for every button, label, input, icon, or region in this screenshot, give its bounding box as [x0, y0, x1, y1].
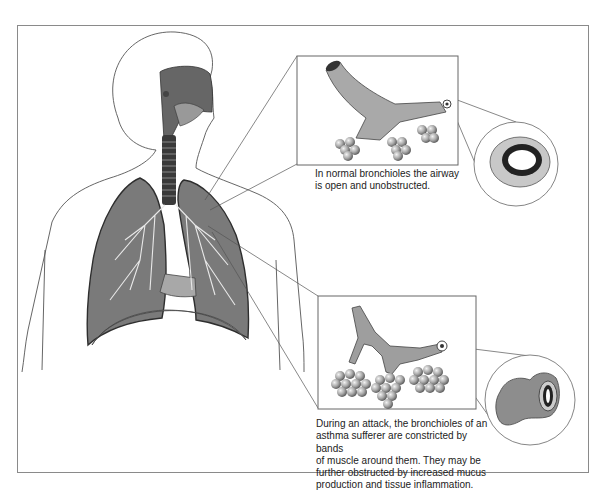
caption-line: further obstructed by increased mucus: [316, 467, 491, 479]
asthma-illustration: [0, 0, 601, 492]
trachea: [162, 135, 176, 205]
caption-line: production and tissue inflammation.: [316, 479, 491, 491]
caption-line: of muscle around them. They may be: [316, 455, 491, 467]
constricted-airway-cross-section: [485, 355, 575, 445]
constricted-bronchioles-inset: [318, 296, 476, 409]
normal-bronchioles-caption: In normal bronchioles the airway is open…: [315, 168, 485, 193]
caption-line: In normal bronchioles the airway: [315, 168, 485, 180]
open-airway-cross-section: [474, 122, 558, 206]
asthma-attack-caption: During an attack, the bronchioles of an …: [316, 418, 491, 492]
caption-line: During an attack, the bronchioles of an: [316, 418, 491, 430]
normal-bronchioles-inset: [297, 56, 458, 165]
caption-line: asthma sufferer are constricted by bands: [316, 430, 491, 455]
caption-line: is open and unobstructed.: [315, 180, 485, 192]
head-airway: [160, 66, 213, 140]
